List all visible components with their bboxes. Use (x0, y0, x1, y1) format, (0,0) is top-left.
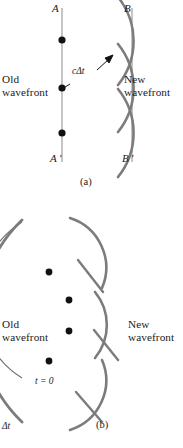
label-B: B (124, 2, 131, 14)
label-B-prime: B ′ (122, 152, 133, 164)
source-point-group-b (46, 269, 73, 365)
new-wavefront-label-a-line2: wavefront (124, 86, 170, 99)
caption-a: (a) (80, 176, 92, 188)
new-wavefront-label-b: New wavefront (128, 318, 174, 343)
new-wavefront-label-b-line1: New (128, 318, 174, 331)
panel-a-plane-wavefront: A B A ′ B ′ Old wavefront New wavefront … (0, 0, 183, 200)
new-wavefront-label-a-line1: New (124, 73, 170, 86)
source-point (46, 358, 53, 365)
new-wavefront-label-b-line2: wavefront (128, 331, 174, 344)
caption-b: (b) (96, 419, 108, 431)
source-point (58, 36, 65, 43)
source-point (58, 129, 65, 136)
radius-label-cdt: cΔt (72, 66, 84, 77)
time-delta-label: Δt (2, 421, 10, 432)
radius-leader-group (62, 55, 113, 89)
new-wavefront-label-a: New wavefront (124, 73, 170, 98)
source-point (46, 269, 53, 276)
old-wavefront-arc-b (0, 222, 22, 378)
wavelet-arc-b-1 (70, 218, 106, 288)
old-wavefront-label-a-line2: wavefront (2, 86, 48, 99)
old-wavefront-label-b-line1: Old (2, 318, 48, 331)
old-wavefront-label-b: Old wavefront (2, 318, 48, 343)
huygens-figure: A B A ′ B ′ Old wavefront New wavefront … (0, 0, 183, 448)
label-A-prime: A ′ (50, 152, 61, 164)
old-wavefront-label-b-line2: wavefront (2, 331, 48, 344)
wavelet-arc-b-2 (95, 292, 107, 358)
panel-b-spherical-wavefront: Old wavefront New wavefront t = 0 Δt (b) (0, 200, 183, 448)
source-point (66, 328, 73, 335)
label-A: A (52, 2, 59, 14)
old-wavefront-label-a-line1: Old (2, 73, 48, 86)
old-wavefront-label-a: Old wavefront (2, 73, 48, 98)
time-initial-label: t = 0 (35, 376, 54, 387)
source-point (66, 297, 73, 304)
panel-a-graphics (0, 0, 183, 200)
wavelet-cross-b-1 (78, 260, 103, 292)
